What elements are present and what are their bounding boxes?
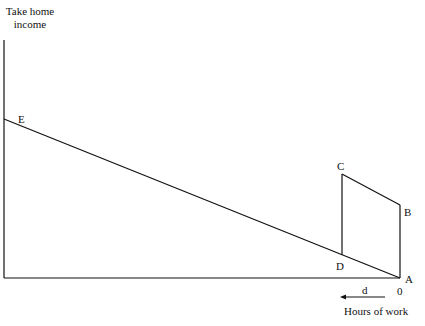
point-label-D: D	[336, 260, 344, 272]
point-label-A: A	[405, 273, 413, 285]
hours-arrow-head	[340, 295, 346, 300]
line-CB	[342, 174, 400, 205]
line-EA	[4, 119, 400, 278]
y-axis-label-line2: income	[0, 18, 60, 31]
budget-constraint-diagram	[0, 0, 425, 326]
x-axis-label: Hours of work	[344, 305, 408, 317]
point-label-B: B	[404, 206, 411, 218]
point-label-C: C	[337, 160, 344, 172]
distance-label-d: d	[362, 284, 368, 296]
y-axis-label-line1: Take home	[0, 5, 60, 18]
point-label-E: E	[18, 113, 25, 125]
y-axis-label: Take home income	[0, 5, 60, 31]
origin-label: 0	[397, 285, 403, 297]
